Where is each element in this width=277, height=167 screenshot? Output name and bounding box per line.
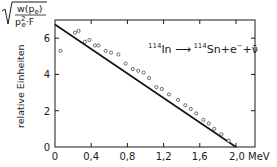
data-point	[220, 133, 223, 136]
data-point	[77, 29, 80, 32]
y-axis-label: relative Einheiten	[15, 44, 26, 128]
data-point	[97, 44, 100, 47]
data-point	[124, 62, 127, 65]
kurie-plot: w(pe) p2e·F relative Einheiten 00,40,81,…	[0, 0, 277, 167]
y-tick-label: 2	[44, 106, 50, 117]
data-point	[93, 44, 96, 47]
data-point	[167, 93, 170, 96]
data-point	[213, 127, 216, 130]
reaction-annotation: 114In⟶114Sn+e−+ν̄	[148, 42, 258, 56]
data-point	[73, 31, 76, 34]
x-tick-label: 0,4	[83, 151, 99, 162]
y-tick-label: 6	[44, 33, 50, 44]
data-point	[83, 40, 86, 43]
data-point	[110, 51, 113, 54]
data-point	[184, 104, 187, 107]
data-point	[59, 49, 62, 52]
plot-frame	[55, 20, 255, 147]
data-point	[195, 112, 198, 115]
x-tick-label: 1,6	[192, 151, 208, 162]
axis-ticks	[55, 20, 255, 147]
data-point	[189, 107, 192, 110]
data-point	[155, 86, 158, 89]
data-point	[88, 38, 91, 41]
y-tick-label: 4	[44, 69, 50, 80]
data-point	[131, 67, 134, 70]
data-point	[148, 76, 151, 79]
x-tick-label: 0,8	[119, 151, 135, 162]
data-point	[142, 71, 145, 74]
data-point	[117, 53, 120, 56]
y-tick-label: 0	[44, 142, 50, 153]
data-point	[202, 118, 205, 121]
data-point	[104, 49, 107, 52]
data-point	[207, 122, 210, 125]
data-point	[176, 98, 179, 101]
data-point	[137, 69, 140, 72]
x-tick-label: 1,2	[156, 151, 172, 162]
y-axis-formula: w(pe) p2e·F	[2, 2, 47, 29]
data-point	[160, 87, 163, 90]
formula-denominator: p2e·F	[15, 15, 34, 29]
data-point	[227, 139, 230, 142]
x-tick-label: 0	[52, 151, 58, 162]
x-tick-label: 2,0 MeV	[229, 151, 270, 162]
